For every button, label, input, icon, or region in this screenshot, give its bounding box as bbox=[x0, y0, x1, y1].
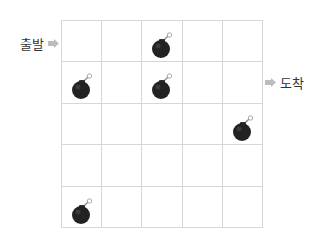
grid-cell bbox=[142, 21, 182, 62]
grid-cell bbox=[223, 62, 263, 103]
grid-cell bbox=[102, 21, 142, 62]
grid-cell bbox=[102, 187, 142, 228]
grid-cell bbox=[183, 62, 223, 103]
end-label: 도착 bbox=[265, 73, 304, 92]
start-text: 출발 bbox=[20, 34, 44, 53]
grid-cell bbox=[223, 145, 263, 186]
grid-cell bbox=[102, 145, 142, 186]
grid-cell bbox=[183, 21, 223, 62]
grid-cell bbox=[142, 145, 182, 186]
arrow-right-icon bbox=[265, 78, 276, 87]
bomb-icon bbox=[149, 73, 175, 99]
grid-cell bbox=[62, 145, 102, 186]
grid-board bbox=[61, 20, 263, 228]
grid-cell bbox=[142, 104, 182, 145]
grid-cell bbox=[62, 21, 102, 62]
bomb-icon bbox=[230, 115, 256, 141]
grid-cell bbox=[142, 62, 182, 103]
arrow-right-icon bbox=[48, 39, 59, 48]
grid-cell bbox=[102, 104, 142, 145]
grid-cell bbox=[62, 104, 102, 145]
grid-cell bbox=[223, 104, 263, 145]
bomb-icon bbox=[149, 32, 175, 58]
start-label: 출발 bbox=[20, 34, 59, 53]
bomb-icon bbox=[69, 198, 95, 224]
grid-cell bbox=[223, 21, 263, 62]
end-text: 도착 bbox=[280, 73, 304, 92]
grid-cell bbox=[183, 104, 223, 145]
grid-cell bbox=[62, 187, 102, 228]
grid-cell bbox=[102, 62, 142, 103]
grid-cell bbox=[183, 187, 223, 228]
grid-cell bbox=[183, 145, 223, 186]
bomb-icon bbox=[69, 73, 95, 99]
grid-cell bbox=[223, 187, 263, 228]
grid-cell bbox=[62, 62, 102, 103]
grid-cell bbox=[142, 187, 182, 228]
